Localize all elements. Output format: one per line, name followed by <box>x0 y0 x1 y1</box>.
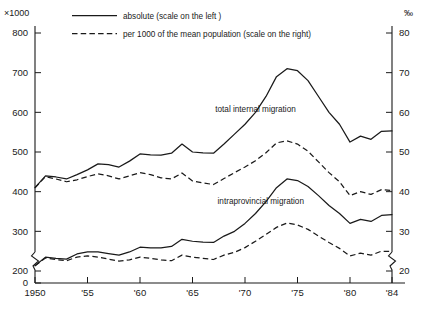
left-axis: 2003004005006007008000 ×1000 <box>4 8 41 288</box>
left-axis-unit-label: ×1000 <box>4 8 29 18</box>
right-tick-label: 20 <box>399 265 410 276</box>
left-axis-tick-labels: 2003004005006007008000 <box>12 27 28 288</box>
x-axis-ticks <box>35 277 392 283</box>
left-axis-line <box>32 26 39 283</box>
x-tick-label: '75 <box>291 287 303 298</box>
right-axis: 20304050607080 ‰ <box>386 8 413 283</box>
x-tick-label: '55 <box>81 287 93 298</box>
right-tick-label: 50 <box>399 146 410 157</box>
series-line-0 <box>35 69 392 188</box>
right-tick-label: 60 <box>399 107 410 118</box>
left-tick-label: 800 <box>12 27 28 38</box>
series-annotation-label: total internal migration <box>215 105 296 114</box>
left-tick-label: 200 <box>12 265 28 276</box>
left-axis-ticks <box>35 33 41 283</box>
right-tick-label: 70 <box>399 67 410 78</box>
left-tick-label: 400 <box>12 186 28 197</box>
x-tick-label: '80 <box>344 287 356 298</box>
series-annotation-label: intraprovincial migration <box>218 197 305 206</box>
x-tick-label: '65 <box>186 287 198 298</box>
right-tick-label: 40 <box>399 186 410 197</box>
series-lines <box>35 69 392 266</box>
left-tick-label: 500 <box>12 146 28 157</box>
legend-entry-absolute: absolute (scale on the left ) <box>72 12 222 21</box>
left-tick-label: 300 <box>12 226 28 237</box>
left-tick-label: 600 <box>12 107 28 118</box>
series-line-3 <box>35 223 392 266</box>
x-axis-tick-labels: 1950'55'60'65'70'75'80'84 <box>24 287 398 298</box>
right-tick-label: 30 <box>399 226 410 237</box>
series-annotations: total internal migrationintraprovincial … <box>215 105 304 205</box>
x-axis: 1950'55'60'65'70'75'80'84 <box>24 277 405 298</box>
right-axis-line <box>389 26 396 283</box>
right-axis-tick-labels: 20304050607080 <box>399 27 410 276</box>
chart-canvas: 2003004005006007008000 ×1000 20304050607… <box>0 0 432 309</box>
legend-label-per-1000: per 1000 of the mean population (scale o… <box>123 30 311 39</box>
series-line-1 <box>35 141 392 196</box>
x-tick-label: '60 <box>134 287 146 298</box>
right-axis-ticks <box>386 33 392 271</box>
x-tick-label: '84 <box>386 287 398 298</box>
x-tick-label: '70 <box>239 287 251 298</box>
x-tick-label: 1950 <box>24 287 45 298</box>
migration-line-chart: 2003004005006007008000 ×1000 20304050607… <box>0 0 432 309</box>
legend-entry-per-1000: per 1000 of the mean population (scale o… <box>72 30 311 39</box>
legend-label-absolute: absolute (scale on the left ) <box>123 12 222 21</box>
right-axis-unit-label: ‰ <box>404 8 413 18</box>
chart-legend: absolute (scale on the left ) per 1000 o… <box>72 12 311 39</box>
right-tick-label: 80 <box>399 27 410 38</box>
series-line-2 <box>35 179 392 266</box>
left-tick-label: 700 <box>12 67 28 78</box>
